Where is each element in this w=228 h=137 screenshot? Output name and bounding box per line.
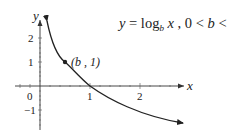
y-axis-label: y [31,8,39,23]
x-axis-label: x [186,78,193,93]
point-b-1 [63,60,67,64]
y-tick-1: 1 [28,56,34,68]
log-curve [47,21,183,123]
origin-label: 0 [27,90,33,102]
point-label: (b , 1) [71,55,100,69]
x-tick-1: 1 [87,90,93,102]
y-tick-2: 2 [28,32,34,44]
y-tick-neg1: −1 [24,104,36,116]
chart-title: y = logb x , 0 < b < 1 [119,15,228,33]
x-tick-2: 2 [137,90,143,102]
